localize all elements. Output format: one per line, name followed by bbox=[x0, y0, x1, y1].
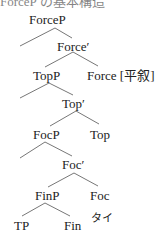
node-focp: FocP bbox=[33, 128, 60, 142]
node-foc-head: Foc bbox=[90, 189, 110, 203]
node-topp: TopP bbox=[33, 69, 60, 83]
node-tp: TP bbox=[14, 219, 29, 233]
node-finp: FinP bbox=[35, 189, 60, 203]
node-fin-head: Fin bbox=[64, 219, 81, 233]
node-fin-lexical: タイ bbox=[91, 211, 113, 225]
node-force-head: Force [平叙] bbox=[87, 69, 155, 83]
node-forcep: ForceP bbox=[29, 13, 66, 27]
node-force-bar: Force′ bbox=[57, 40, 89, 54]
node-foc-bar: Foc′ bbox=[62, 158, 84, 172]
tree-branches bbox=[0, 0, 159, 241]
node-top-bar: Top′ bbox=[62, 97, 85, 111]
node-top-head: Top bbox=[90, 128, 110, 142]
